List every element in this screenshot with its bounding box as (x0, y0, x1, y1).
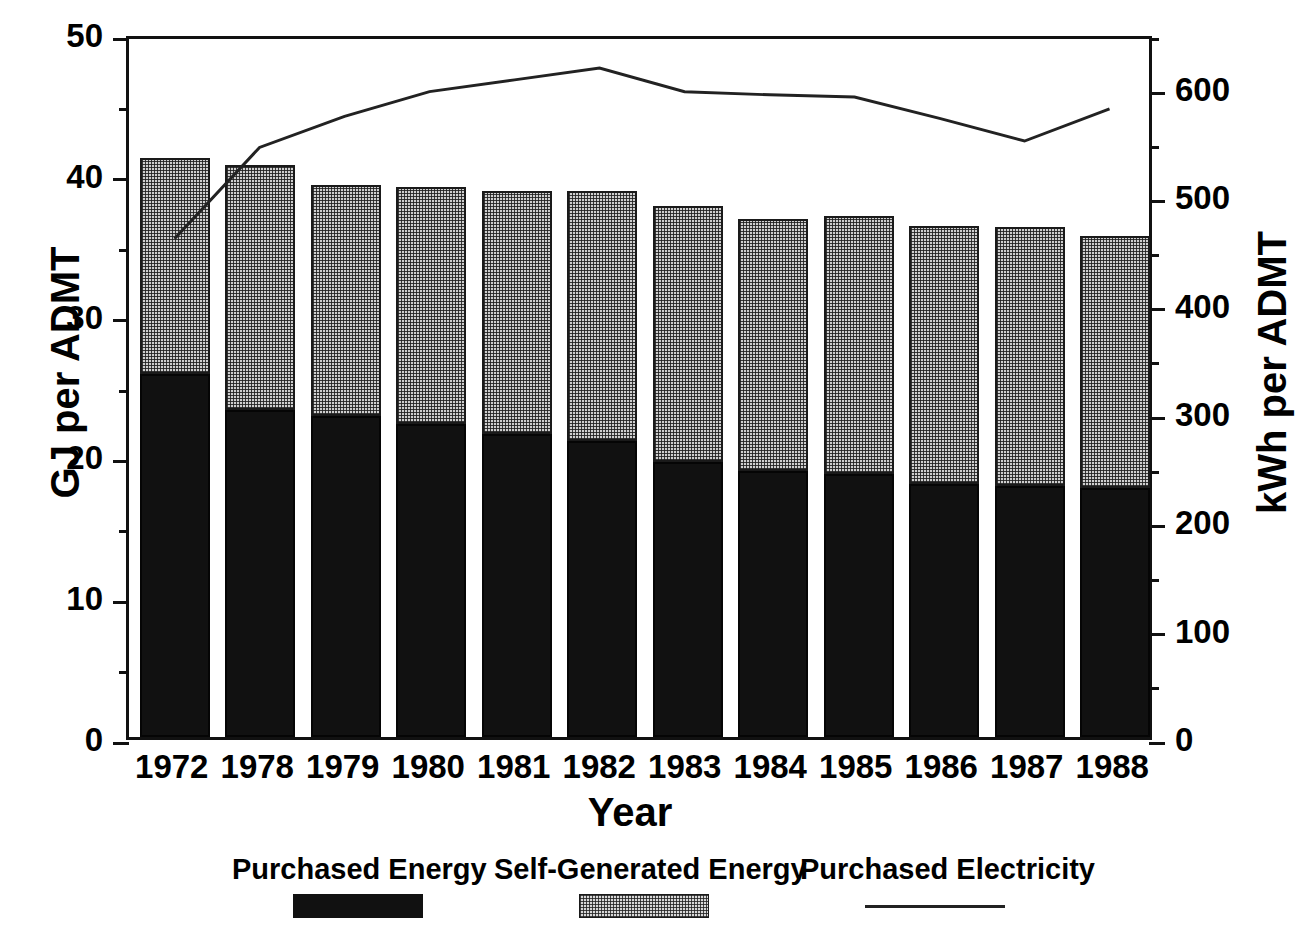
y-axis-left-tick-label: 50 (66, 17, 103, 55)
y-axis-left-tick-major (113, 742, 129, 745)
legend-swatch-stipple-gray-swatch (579, 894, 709, 918)
legend-swatch-wrapper (232, 893, 484, 919)
y-axis-right-tick-minor (1149, 254, 1159, 257)
y-axis-right-title: kWh per ADMT (1250, 213, 1295, 533)
x-axis-tick-label: 1984 (728, 748, 814, 786)
y-axis-right-tick-label: 400 (1175, 288, 1230, 326)
legend-item-label: Purchased Energy (232, 852, 484, 886)
y-axis-left-tick-major (113, 319, 129, 322)
y-axis-right-tick-major (1149, 92, 1165, 95)
y-axis-left-tick-label: 40 (66, 158, 103, 196)
y-axis-left-tick-label: 30 (66, 299, 103, 337)
y-axis-right-tick-major (1149, 417, 1165, 420)
y-axis-left-tick-label: 20 (66, 439, 103, 477)
x-axis-tick-label: 1972 (129, 748, 215, 786)
purchased-electricity-polyline (175, 68, 1110, 239)
y-axis-right-tick-major (1149, 525, 1165, 528)
legend-item[interactable]: Purchased Electricity (800, 852, 1070, 919)
purchased-electricity-line-series (129, 39, 1149, 737)
y-axis-left-tick-minor (119, 671, 129, 674)
x-axis-tick-label: 1988 (1070, 748, 1156, 786)
y-axis-right-tick-major (1149, 742, 1165, 745)
y-axis-right-tick-minor (1149, 579, 1159, 582)
y-axis-left-tick-minor (119, 249, 129, 252)
y-axis-left-tick-minor (119, 108, 129, 111)
y-axis-right-tick-label: 100 (1175, 613, 1230, 651)
y-axis-right-tick-label: 0 (1175, 721, 1193, 759)
y-axis-left-tick-label: 10 (66, 580, 103, 618)
x-axis-tick-label: 1979 (300, 748, 386, 786)
legend-item[interactable]: Self-Generated Energy (494, 852, 794, 919)
y-axis-left-tick-minor (119, 390, 129, 393)
plot-area: 01020304050 0100200300400500600 (126, 36, 1152, 740)
y-axis-right-tick-label: 600 (1175, 71, 1230, 109)
legend-swatch-wrapper (494, 893, 794, 919)
x-axis-tick-label: 1983 (642, 748, 728, 786)
y-axis-left-title: GJ per ADMT (43, 213, 88, 533)
x-axis-tick-label: 1985 (813, 748, 899, 786)
y-axis-right-tick-major (1149, 200, 1165, 203)
y-axis-left-tick-label: 0 (85, 721, 103, 759)
y-axis-right-tick-label: 500 (1175, 179, 1230, 217)
legend-item[interactable]: Purchased Energy (232, 852, 484, 919)
x-axis-tick-label: 1986 (899, 748, 985, 786)
y-axis-right-tick-minor (1149, 471, 1159, 474)
legend-swatch-wrapper (800, 893, 1070, 919)
legend-swatch-line-swatch (865, 905, 1005, 908)
y-axis-left-tick-major (113, 178, 129, 181)
chart-legend: Purchased EnergySelf-Generated EnergyPur… (0, 852, 1310, 922)
y-axis-left-tick-major (113, 460, 129, 463)
legend-swatch-solid-black-swatch (293, 894, 423, 918)
y-axis-left-tick-major (113, 38, 129, 41)
y-axis-right-tick-major (1149, 633, 1165, 636)
y-axis-right-tick-label: 300 (1175, 396, 1230, 434)
y-axis-left-tick-major (113, 601, 129, 604)
y-axis-right-tick-minor (1149, 687, 1159, 690)
y-axis-right-tick-label: 200 (1175, 504, 1230, 542)
x-axis-tick-label: 1982 (557, 748, 643, 786)
y-axis-right-tick-minor (1149, 38, 1159, 41)
x-axis-title: Year (0, 790, 1260, 835)
energy-intensity-chart: GJ per ADMT kWh per ADMT Year 0102030405… (0, 0, 1310, 935)
legend-item-label: Purchased Electricity (800, 852, 1070, 886)
x-axis-tick-label: 1987 (984, 748, 1070, 786)
y-axis-right-tick-minor (1149, 362, 1159, 365)
x-axis-tick-label: 1981 (471, 748, 557, 786)
legend-item-label: Self-Generated Energy (494, 852, 794, 886)
y-axis-right-tick-major (1149, 308, 1165, 311)
y-axis-right-tick-minor (1149, 146, 1159, 149)
y-axis-left-tick-minor (119, 530, 129, 533)
x-axis-tick-labels: 1972197819791980198119821983198419851986… (126, 748, 1152, 790)
x-axis-tick-label: 1978 (215, 748, 301, 786)
x-axis-tick-label: 1980 (386, 748, 472, 786)
